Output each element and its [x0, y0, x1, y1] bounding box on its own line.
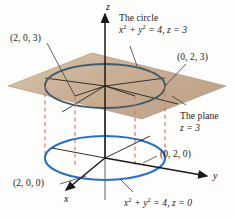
label-point-2-0-3: (2, 0, 3): [10, 33, 41, 44]
label-the-circle: The circle x2 + y2 = 4, z = 3: [119, 12, 187, 36]
circle-eq-post: = 4, z = 3: [146, 25, 187, 35]
label-the-plane-equation: z = 3: [180, 122, 219, 134]
label-the-plane-title: The plane: [180, 110, 219, 122]
axis-label-y: y: [213, 170, 217, 181]
axis-x-negative: [105, 136, 150, 158]
bottom-eq-post: = 4, z = 0: [151, 198, 192, 208]
axis-x: [66, 158, 105, 190]
axis-y: [105, 158, 207, 176]
label-the-circle-equation: x2 + y2 = 4, z = 3: [119, 24, 187, 36]
label-point-0-2-3: (0, 2, 3): [177, 52, 208, 63]
label-the-plane: The plane z = 3: [180, 110, 219, 134]
label-the-circle-title: The circle: [119, 12, 187, 24]
circle-eq-mid: + y: [127, 25, 143, 35]
bottom-eq-mid: + y: [132, 198, 148, 208]
leader-bottom-eq: [120, 179, 133, 192]
axis-label-x: x: [64, 193, 68, 204]
label-bottom-equation: x2 + y2 = 4, z = 0: [124, 198, 192, 209]
label-point-2-0-0: (2, 0, 0): [13, 178, 44, 189]
coordinate-diagram-figure: (2, 0, 3) The circle x2 + y2 = 4, z = 3 …: [0, 0, 234, 220]
label-point-0-2-0: (0, 2, 0): [160, 149, 191, 160]
axis-y-negative: [52, 148, 105, 158]
leader-020: [143, 156, 157, 163]
axis-label-z: z: [106, 1, 110, 12]
